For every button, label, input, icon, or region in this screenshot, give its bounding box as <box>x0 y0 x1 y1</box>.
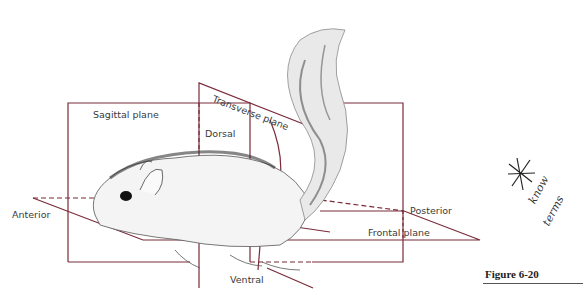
transverse-bottom <box>267 268 313 288</box>
label-dorsal: Dorsal <box>205 128 235 139</box>
label-ventral: Ventral <box>230 274 264 285</box>
squirrel-feet <box>175 250 300 270</box>
figure-caption: Figure 6-20 <box>485 268 539 280</box>
label-posterior: Posterior <box>410 205 452 216</box>
asterisk-icon <box>508 158 535 190</box>
squirrel-eye <box>120 191 132 201</box>
caption-rule <box>483 283 583 284</box>
squirrel-illustration <box>93 29 347 270</box>
label-sagittal-plane: Sagittal plane <box>93 109 159 120</box>
label-anterior: Anterior <box>12 209 50 220</box>
diagram-canvas <box>0 0 585 294</box>
label-frontal-plane: Frontal plane <box>368 227 430 238</box>
